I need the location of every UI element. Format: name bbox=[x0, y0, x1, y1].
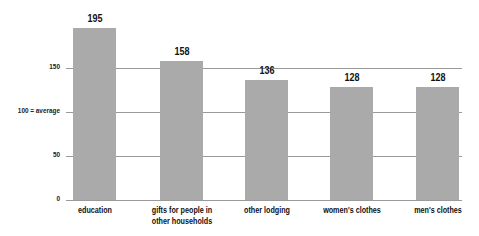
y-tick-label: 50 bbox=[12, 150, 60, 159]
category-label-line: other households bbox=[142, 216, 222, 227]
category-label-line: women's clothes bbox=[312, 205, 392, 216]
category-label-line: gifts for people in bbox=[142, 205, 222, 216]
bar-men-s-clothes bbox=[416, 87, 459, 200]
bar-gifts-for-people-in-other-households bbox=[160, 61, 203, 200]
category-label-line: men's clothes bbox=[398, 205, 478, 216]
category-label: men's clothes bbox=[398, 205, 478, 216]
value-label: 195 bbox=[70, 12, 119, 24]
bar-education bbox=[73, 28, 116, 200]
category-label-line: education bbox=[55, 205, 135, 216]
value-label: 136 bbox=[242, 64, 291, 76]
category-label: education bbox=[55, 205, 135, 216]
value-label: 158 bbox=[157, 45, 206, 57]
category-label: other lodging bbox=[227, 205, 307, 216]
y-tick-label: 150 bbox=[12, 62, 60, 71]
y-tick-label: 100 = average bbox=[12, 106, 60, 115]
value-label: 128 bbox=[413, 71, 462, 83]
value-label: 128 bbox=[327, 71, 376, 83]
bar-other-lodging bbox=[245, 80, 288, 200]
gridline bbox=[66, 200, 462, 201]
category-label: women's clothes bbox=[312, 205, 392, 216]
bar-women-s-clothes bbox=[330, 87, 373, 200]
category-label-line: other lodging bbox=[227, 205, 307, 216]
y-tick-label: 0 bbox=[12, 194, 60, 203]
category-label: gifts for people inother households bbox=[142, 205, 222, 227]
